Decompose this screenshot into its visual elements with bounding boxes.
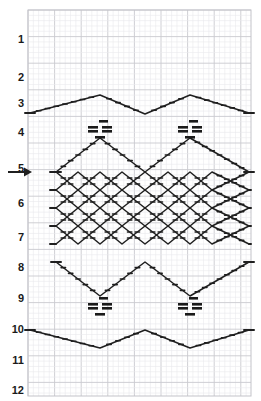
- purl-symbol-bar: [192, 303, 202, 306]
- purl-symbol-bar: [102, 130, 112, 133]
- lattice-up-3: [56, 226, 249, 244]
- purl-symbol-bar: [178, 126, 188, 129]
- purl-symbol-bar: [192, 307, 202, 310]
- lattice-down-2: [56, 208, 249, 226]
- chart-svg: [0, 0, 261, 401]
- purl-symbol-bar: [102, 307, 112, 310]
- purl-symbol-bar: [95, 136, 105, 139]
- lattice-down-1: [56, 190, 249, 208]
- purl-symbol-bar: [189, 297, 198, 300]
- lattice-up-1: [56, 190, 249, 208]
- purl-symbol-bar: [99, 297, 108, 300]
- purl-symbol-bar: [178, 303, 188, 306]
- purl-symbol-bar: [178, 130, 188, 133]
- purl-symbol-bar: [178, 307, 188, 310]
- purl-symbol-bar: [88, 307, 98, 310]
- purl-symbol-bar: [185, 136, 195, 139]
- purl-symbol-bar: [192, 130, 202, 133]
- purl-symbol-bar: [102, 303, 112, 306]
- purl-symbol-bar: [189, 120, 198, 123]
- purl-symbol-bar: [102, 126, 112, 129]
- purl-symbol-bar: [88, 126, 98, 129]
- purl-symbol-bar: [192, 126, 202, 129]
- purl-symbol-bar: [88, 130, 98, 133]
- lattice-up-2: [56, 208, 249, 226]
- chart-canvas: [0, 0, 261, 401]
- lattice-down-3: [56, 226, 249, 244]
- purl-symbol-bar: [99, 120, 108, 123]
- purl-symbol-bar: [88, 303, 98, 306]
- purl-symbol-bar: [95, 313, 105, 316]
- purl-symbol-bar: [185, 313, 195, 316]
- knitting-chart-page: 123456789101112: [0, 0, 261, 401]
